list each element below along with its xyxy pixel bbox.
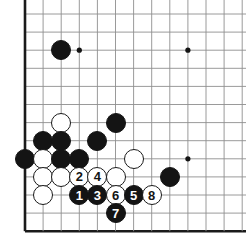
move-stone-6: 6 [106, 185, 126, 205]
black-stone [51, 131, 71, 151]
stone-move-number: 7 [112, 206, 119, 219]
black-stone [33, 131, 53, 151]
move-stone-5: 5 [124, 185, 144, 205]
stone-move-number: 3 [94, 188, 101, 201]
black-stone [69, 149, 89, 169]
go-board-diagram: 24136587 [0, 0, 246, 240]
move-stone-1: 1 [69, 185, 89, 205]
stone-move-number: 6 [112, 188, 119, 201]
stone-move-number: 8 [148, 188, 155, 201]
white-stone [106, 167, 126, 187]
white-stone [51, 113, 71, 133]
move-stone-7: 7 [106, 203, 126, 223]
move-stone-4: 4 [87, 167, 107, 187]
white-stone [51, 167, 71, 187]
black-stone [106, 113, 126, 133]
black-stone [87, 131, 107, 151]
white-stone [33, 149, 53, 169]
stone-move-number: 1 [76, 188, 83, 201]
white-stone [33, 185, 53, 205]
move-stone-2: 2 [69, 167, 89, 187]
move-stone-3: 3 [87, 185, 107, 205]
stone-layer: 24136587 [0, 0, 246, 240]
move-stone-8: 8 [142, 185, 162, 205]
white-stone [124, 149, 144, 169]
black-stone [160, 167, 180, 187]
white-stone [33, 167, 53, 187]
black-stone [51, 149, 71, 169]
stone-move-number: 2 [76, 170, 83, 183]
black-stone [51, 40, 71, 60]
stone-move-number: 4 [94, 170, 101, 183]
stone-move-number: 5 [130, 188, 137, 201]
black-stone [15, 149, 35, 169]
